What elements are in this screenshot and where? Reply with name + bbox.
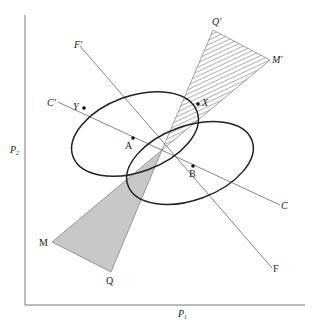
- label-a: A: [125, 140, 133, 151]
- lower-cone-shaded: [52, 150, 162, 272]
- label-y: Y: [73, 101, 80, 112]
- y-axis-label: P2: [9, 144, 19, 156]
- label-m-prime: M′: [271, 54, 283, 65]
- label-q-prime: Q′: [212, 16, 222, 27]
- label-m: M: [39, 237, 48, 248]
- label-b: B: [189, 168, 196, 179]
- upper-cone-hatched: [162, 30, 270, 150]
- label-x: X: [201, 97, 209, 108]
- line-cc: [58, 102, 280, 205]
- x-axis-label: P1: [177, 308, 187, 320]
- point-y: [82, 106, 86, 110]
- label-f: F: [273, 263, 279, 274]
- label-q: Q: [106, 275, 114, 286]
- label-c-prime: C′: [47, 97, 57, 108]
- diagram-canvas: P2 P1 F′ F C′ C Q′ M′ M Q X Y A B: [0, 0, 314, 326]
- point-x: [196, 102, 200, 106]
- label-c: C: [281, 200, 288, 211]
- label-f-prime: F′: [73, 39, 83, 50]
